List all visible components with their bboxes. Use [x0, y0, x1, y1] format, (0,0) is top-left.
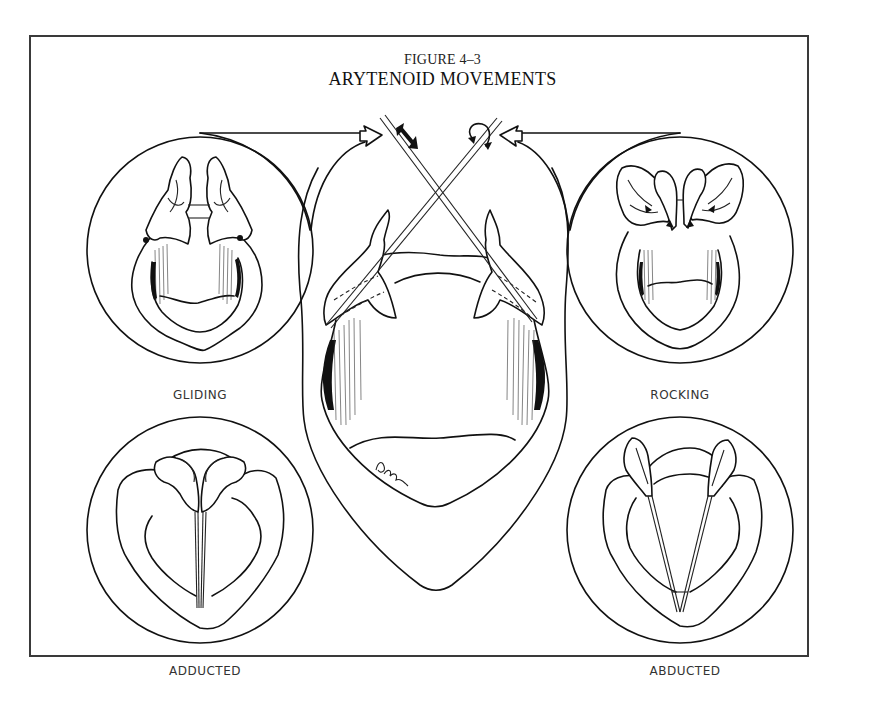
panel-label-gliding: GLIDING — [130, 388, 270, 402]
panel-label-abducted: ABDUCTED — [615, 664, 755, 678]
panel-label-adducted: ADDUCTED — [135, 664, 275, 678]
artist-signature — [376, 463, 408, 486]
center-larynx-drawing — [299, 115, 569, 590]
arytenoid-diagram — [0, 0, 885, 718]
adducted-larynx-drawing — [87, 417, 313, 643]
abducted-larynx-drawing — [567, 417, 793, 643]
panel-label-rocking: ROCKING — [610, 388, 750, 402]
